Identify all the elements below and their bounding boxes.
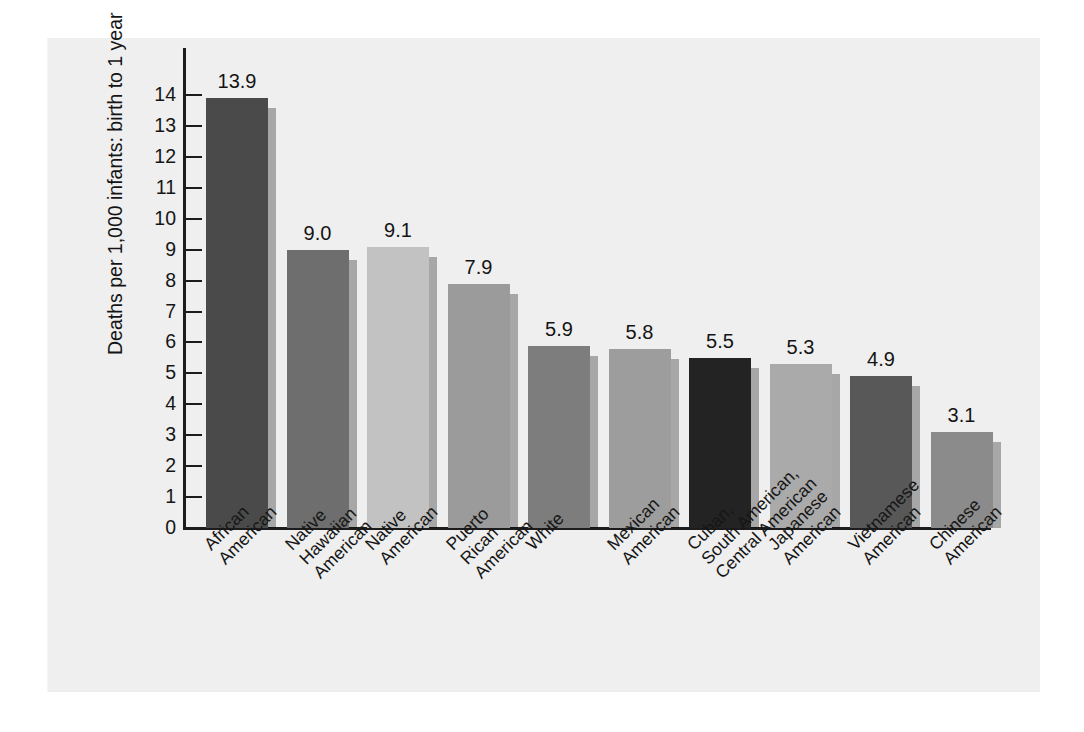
bar-shadow	[590, 356, 598, 528]
y-tick-5	[186, 372, 202, 374]
y-axis-title: Deaths per 1,000 infants: birth to 1 yea…	[104, 12, 127, 355]
bar-value-label: 3.1	[912, 405, 1012, 425]
y-tick-14	[186, 94, 202, 96]
bar-chart-plot: Deaths per 1,000 infants: birth to 1 yea…	[0, 0, 1084, 732]
y-tick-1	[186, 496, 202, 498]
bar-value-label: 9.1	[348, 220, 448, 240]
bar	[367, 247, 429, 528]
y-tick-label-6: 6	[140, 332, 176, 352]
y-tick-label-1: 1	[140, 487, 176, 507]
y-tick-7	[186, 311, 202, 313]
y-tick-10	[186, 218, 202, 220]
bar-body	[206, 98, 268, 528]
y-tick-label-3: 3	[140, 425, 176, 445]
bar-value-label: 7.9	[429, 257, 529, 277]
y-tick-label-2: 2	[140, 456, 176, 476]
y-tick-6	[186, 341, 202, 343]
y-tick-label-12: 12	[140, 147, 176, 167]
chart-page: Deaths per 1,000 infants: birth to 1 yea…	[0, 0, 1084, 732]
bar	[206, 98, 268, 528]
bar	[448, 284, 510, 528]
y-tick-label-10: 10	[140, 209, 176, 229]
y-tick-9	[186, 249, 202, 251]
bar-value-label: 4.9	[831, 349, 931, 369]
y-tick-13	[186, 125, 202, 127]
bar-shadow	[671, 359, 679, 528]
y-tick-label-0: 0	[140, 518, 176, 538]
y-tick-label-11: 11	[140, 178, 176, 198]
y-tick-label-7: 7	[140, 302, 176, 322]
bar-body	[528, 346, 590, 528]
y-tick-2	[186, 465, 202, 467]
bar-value-label: 13.9	[187, 71, 287, 91]
bar-body	[448, 284, 510, 528]
bar-shadow	[429, 257, 437, 528]
y-tick-label-4: 4	[140, 394, 176, 414]
bar-shadow	[349, 260, 357, 528]
y-tick-12	[186, 156, 202, 158]
bar	[528, 346, 590, 528]
y-tick-4	[186, 403, 202, 405]
y-tick-label-14: 14	[140, 85, 176, 105]
y-tick-label-9: 9	[140, 240, 176, 260]
bar-shadow	[268, 108, 276, 528]
bar-body	[367, 247, 429, 528]
y-tick-8	[186, 280, 202, 282]
y-axis-line	[183, 48, 186, 530]
y-tick-label-5: 5	[140, 363, 176, 383]
y-tick-label-13: 13	[140, 116, 176, 136]
y-tick-label-8: 8	[140, 271, 176, 291]
y-tick-11	[186, 187, 202, 189]
bar-body	[287, 250, 349, 528]
y-tick-3	[186, 434, 202, 436]
bar	[287, 250, 349, 528]
